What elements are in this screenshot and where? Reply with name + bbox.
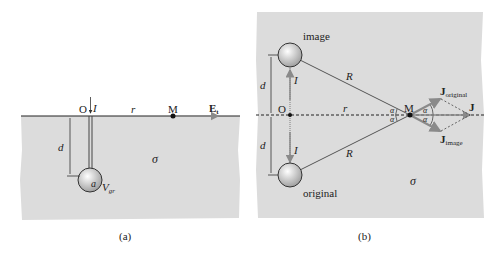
original-sphere — [278, 163, 302, 187]
label-depth-bottom: d — [260, 139, 266, 151]
label-m: M — [404, 102, 414, 114]
label-depth-top: d — [260, 79, 266, 91]
label-R-bottom: R — [345, 147, 353, 159]
sphere-electrode — [78, 168, 102, 192]
label-field: Et — [209, 102, 219, 116]
label-current: I — [92, 102, 98, 114]
label-r: r — [131, 103, 136, 115]
caption-a: (a) — [119, 230, 132, 243]
label-depth: d — [58, 141, 64, 153]
label-image: image — [303, 30, 330, 42]
caption-b: (b) — [358, 230, 371, 243]
label-radius: a — [91, 178, 96, 189]
label-R-top: R — [345, 70, 353, 82]
panel-b: image original O I I d d R R r M α α α α… — [256, 12, 484, 243]
panel-a: O I r M Et d a Vgr σ (a) — [20, 97, 240, 243]
label-j-total: J — [469, 101, 475, 113]
label-origin: O — [278, 103, 286, 115]
label-origin: O — [79, 103, 87, 115]
image-sphere — [278, 43, 302, 67]
label-original: original — [303, 187, 337, 199]
label-m: M — [168, 103, 178, 115]
origin-point — [288, 113, 292, 117]
ground-region — [20, 116, 240, 220]
label-r: r — [343, 102, 348, 114]
figure: O I r M Et d a Vgr σ (a) image origi — [0, 0, 495, 256]
